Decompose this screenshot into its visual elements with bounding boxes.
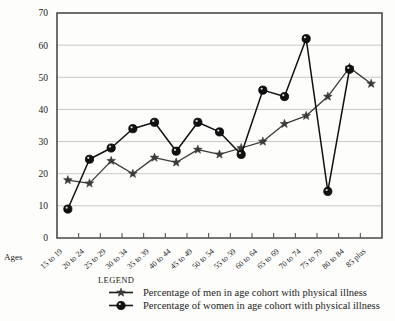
x-axis-category-label: 55 to 59 bbox=[212, 247, 238, 271]
marker-highlight bbox=[217, 129, 219, 131]
plot-border bbox=[57, 13, 382, 238]
y-axis-tick-label: 60 bbox=[39, 41, 49, 51]
legend-entry-label: Percentage of men in age cohort with phy… bbox=[143, 287, 367, 298]
y-axis-tick-label: 50 bbox=[39, 73, 49, 83]
series-line bbox=[68, 68, 371, 184]
legend-entry-label: Percentage of women in age cohort with p… bbox=[143, 300, 380, 311]
data-point-marker-star bbox=[128, 169, 137, 177]
marker-highlight bbox=[261, 88, 263, 90]
x-axis-category-label: 65 to 69 bbox=[255, 247, 281, 271]
x-axis-category-label: 70 to 74 bbox=[277, 247, 303, 271]
marker-highlight bbox=[152, 120, 154, 122]
x-axis-category-label: 75 to 79 bbox=[299, 247, 325, 271]
marker-highlight bbox=[66, 207, 68, 209]
data-point-marker-star bbox=[172, 158, 181, 166]
legend-marker-highlight bbox=[119, 303, 121, 305]
data-point-marker-circle bbox=[302, 35, 310, 43]
data-point-marker-circle bbox=[172, 147, 180, 155]
marker-highlight bbox=[131, 126, 133, 128]
marker-highlight bbox=[347, 67, 349, 69]
series-women bbox=[64, 35, 354, 214]
legend-marker-circle bbox=[117, 301, 125, 309]
marker-highlight bbox=[109, 146, 111, 148]
marker-highlight bbox=[239, 152, 241, 154]
marker-highlight bbox=[282, 94, 284, 96]
data-point-marker-star bbox=[215, 150, 224, 158]
x-axis-category-label: 25 to 29 bbox=[82, 247, 108, 271]
series-men bbox=[63, 63, 375, 187]
data-point-marker-circle bbox=[259, 86, 267, 94]
x-axis-labels: 15 to 1920 to 2425 to 2930 to 3435 to 39… bbox=[39, 247, 368, 271]
y-axis-tick-label: 0 bbox=[43, 233, 48, 243]
x-axis-category-label: 60 to 64 bbox=[234, 247, 260, 271]
legend-title: LEGEND bbox=[98, 275, 134, 285]
x-axis-category-label: 45 to 49 bbox=[169, 247, 195, 271]
x-axis-category-label: 50 to 54 bbox=[190, 247, 216, 271]
legend-entry[interactable]: Percentage of women in age cohort with p… bbox=[109, 300, 380, 311]
y-axis-tick-label: 70 bbox=[39, 8, 49, 18]
plot-frame bbox=[57, 13, 382, 238]
marker-highlight bbox=[326, 189, 328, 191]
y-axis-labels: 010203040506070 bbox=[39, 8, 49, 243]
data-point-marker-star bbox=[258, 137, 267, 145]
x-axis-category-label: 35 to 39 bbox=[125, 247, 151, 271]
marker-highlight bbox=[174, 149, 176, 151]
y-axis-tick-label: 40 bbox=[39, 105, 49, 115]
legend-marker-star bbox=[117, 288, 126, 296]
data-point-marker-circle bbox=[237, 150, 245, 158]
data-point-marker-circle bbox=[194, 118, 202, 126]
marker-highlight bbox=[304, 36, 306, 38]
data-point-marker-circle bbox=[129, 125, 137, 133]
series-line bbox=[68, 39, 350, 209]
line-chart: 010203040506070 15 to 1920 to 2425 to 29… bbox=[0, 0, 395, 321]
data-series bbox=[63, 35, 375, 214]
legend-entry[interactable]: Percentage of men in age cohort with phy… bbox=[109, 287, 367, 298]
x-axis-category-label: 40 to 44 bbox=[147, 247, 173, 271]
chart-legend: LEGENDPercentage of men in age cohort wi… bbox=[98, 275, 380, 311]
ages-axis-label: Ages bbox=[4, 252, 23, 262]
y-axis-tick-label: 20 bbox=[39, 169, 49, 179]
data-point-marker-star bbox=[63, 176, 72, 184]
marker-highlight bbox=[87, 157, 89, 159]
marker-highlight bbox=[196, 120, 198, 122]
data-point-marker-circle bbox=[215, 128, 223, 136]
data-point-marker-circle bbox=[324, 187, 332, 195]
x-axis-title: Ages bbox=[4, 252, 23, 262]
data-point-marker-circle bbox=[107, 144, 115, 152]
x-axis-category-label: 85 plus bbox=[344, 247, 367, 269]
data-point-marker-circle bbox=[345, 65, 353, 73]
y-axis-tick-label: 10 bbox=[39, 201, 49, 211]
data-point-marker-circle bbox=[85, 155, 93, 163]
data-point-marker-star bbox=[367, 79, 376, 87]
chart-canvas: 010203040506070 15 to 1920 to 2425 to 29… bbox=[0, 0, 395, 321]
data-point-marker-circle bbox=[150, 118, 158, 126]
data-point-marker-circle bbox=[280, 92, 288, 100]
x-axis-category-label: 30 to 34 bbox=[104, 247, 130, 271]
gridlines bbox=[57, 13, 382, 206]
x-axis-category-label: 20 to 24 bbox=[60, 247, 86, 271]
x-axis-category-label: 80 to 84 bbox=[320, 247, 346, 271]
x-axis-category-label: 15 to 19 bbox=[39, 247, 65, 271]
y-axis-tick-label: 30 bbox=[39, 137, 49, 147]
data-point-marker-circle bbox=[64, 205, 72, 213]
